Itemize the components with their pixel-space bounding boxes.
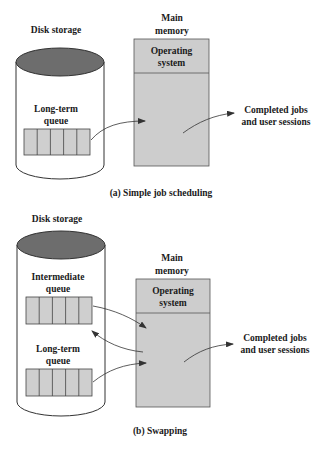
disk-storage-label: Disk storage [32,214,82,224]
long-term-queue-label-line1: Long-term [36,344,80,354]
disk-storage-label: Disk storage [31,25,81,35]
main-memory-label-line2: memory [155,26,189,36]
scheduling-diagram: Disk storage Long-term queue Main memory… [0,0,323,454]
os-label-line2: system [159,298,187,308]
panel-b-swapping: Disk storage Intermediate queue Long-ter… [17,214,310,437]
os-label-line2: system [158,58,186,68]
main-memory-label-line1: Main [161,13,183,23]
intermediate-queue [26,297,92,324]
caption-b: (b) Swapping [133,426,187,437]
long-term-queue [24,129,90,155]
long-term-queue-label-line2: queue [46,356,70,366]
os-label-line1: Operating [152,286,194,296]
main-memory-label-line2: memory [155,266,189,276]
panel-a-simple-job-scheduling: Disk storage Long-term queue Main memory… [16,13,311,199]
long-term-queue-label-line2: queue [44,116,68,126]
completed-jobs-label-line2: and user sessions [242,117,311,127]
completed-jobs-label-line2: and user sessions [241,345,310,355]
main-memory-label-line1: Main [161,253,183,263]
completed-jobs-label-line1: Completed jobs [243,333,307,343]
completed-jobs-label-line1: Completed jobs [244,105,308,115]
caption-a: (a) Simple job scheduling [110,188,213,199]
intermediate-queue-label-line2: queue [46,284,70,294]
long-term-queue-label-line1: Long-term [34,104,78,114]
long-term-queue [26,369,92,396]
os-label-line1: Operating [151,46,193,56]
intermediate-queue-label-line1: Intermediate [32,272,85,282]
